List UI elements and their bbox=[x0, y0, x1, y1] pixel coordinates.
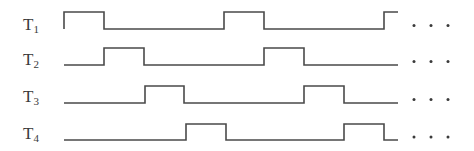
continuation-dot-icon bbox=[447, 136, 450, 139]
continuation-dot-icon bbox=[447, 60, 450, 63]
waveform-t2 bbox=[64, 48, 398, 65]
waveform-t4 bbox=[64, 124, 398, 140]
waveform-t1 bbox=[64, 12, 398, 29]
continuation-dot-icon bbox=[430, 98, 433, 101]
continuation-dot-icon bbox=[430, 136, 433, 139]
continuation-dot-icon bbox=[413, 98, 416, 101]
continuation-dot-icon bbox=[447, 24, 450, 27]
waveform-t3 bbox=[64, 86, 398, 103]
waveforms bbox=[0, 0, 474, 151]
continuation-dot-icon bbox=[413, 136, 416, 139]
continuation-dot-icon bbox=[430, 60, 433, 63]
continuation-dot-icon bbox=[447, 98, 450, 101]
continuation-dot-icon bbox=[430, 24, 433, 27]
continuation-dot-icon bbox=[413, 60, 416, 63]
continuation-dot-icon bbox=[413, 24, 416, 27]
